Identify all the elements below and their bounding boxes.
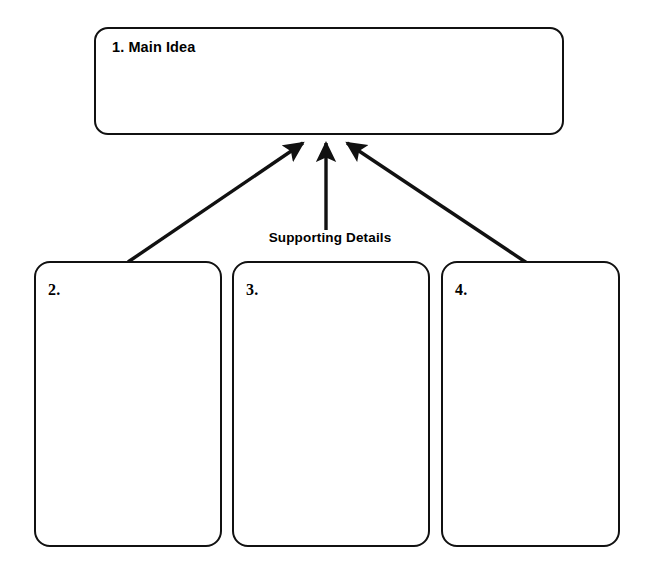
- detail-box-4[interactable]: 4.: [441, 261, 620, 547]
- arrow-from-box-4: [347, 143, 527, 263]
- detail-box-2-label: 2.: [48, 281, 60, 299]
- main-idea-box[interactable]: 1. Main Idea: [94, 27, 564, 135]
- main-idea-label: 1. Main Idea: [112, 39, 195, 55]
- detail-box-3[interactable]: 3.: [232, 261, 430, 547]
- detail-box-2[interactable]: 2.: [34, 261, 222, 547]
- detail-box-3-label: 3.: [246, 281, 258, 299]
- graphic-organizer: 1. Main Idea Supporting Details 2. 3. 4.: [0, 0, 651, 576]
- supporting-details-label: Supporting Details: [255, 230, 405, 245]
- detail-box-4-label: 4.: [455, 281, 467, 299]
